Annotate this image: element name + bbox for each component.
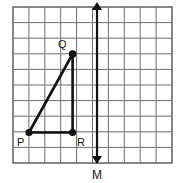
geometry-figure: PQRM <box>0 0 184 183</box>
grid <box>13 7 172 163</box>
vertex-label-r: R <box>77 136 85 148</box>
line-m-arrow-top <box>92 2 102 10</box>
vertex-label-p: P <box>17 136 24 148</box>
vertex-label-q: Q <box>58 38 67 50</box>
figure-canvas: PQRM <box>0 0 184 183</box>
line-m-label: M <box>92 168 102 182</box>
vertex-point-q <box>69 50 77 58</box>
vertex-point-p <box>25 129 32 136</box>
vertex-point-r <box>69 129 76 136</box>
